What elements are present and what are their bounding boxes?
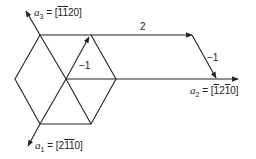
inner-vector-label: −1 (79, 60, 90, 71)
hexagon-diagram (0, 0, 256, 159)
a1-label: a1 = [2110] (35, 139, 83, 153)
a2-label: a2 = [1210] (190, 84, 239, 98)
a3-label: a3 = [1120] (34, 6, 82, 20)
top-vector-label: 2 (140, 21, 146, 32)
right-vector-label: −1 (207, 52, 218, 63)
inner-vector (66, 37, 89, 79)
